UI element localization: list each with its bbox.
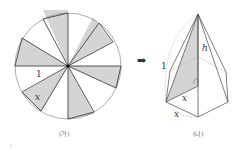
side-label: x: [35, 93, 40, 102]
circle-figure: [15, 10, 121, 119]
height-label: h: [202, 44, 208, 53]
pyramid-figure: [165, 14, 228, 117]
caption-a: (가): [59, 129, 70, 138]
base-label: x: [174, 110, 179, 119]
caption-b: (나): [193, 129, 204, 138]
arrow-icon: ➡: [137, 55, 146, 66]
edge-label: 1: [161, 62, 167, 71]
footnote: 1: [10, 143, 13, 148]
radius-label: 1: [36, 70, 42, 79]
inner-label: x: [182, 94, 187, 103]
